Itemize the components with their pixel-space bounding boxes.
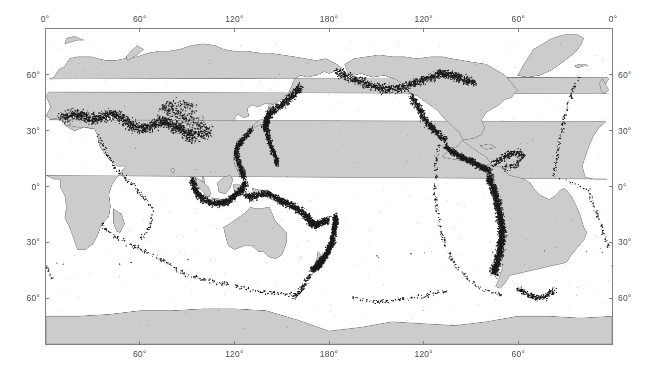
world-map-canvas	[46, 29, 612, 344]
axis-tick-label: 60°	[27, 70, 40, 80]
axis-tick-mark	[609, 186, 613, 187]
axis-tick-mark	[139, 341, 140, 345]
axis-tick-mark	[518, 341, 519, 345]
axis-tick-label: 0°	[618, 182, 627, 192]
earthquake-distribution-figure: 0°60°120°180°120°60°0° 60°120°180°120°60…	[0, 0, 658, 377]
axis-tick-mark	[45, 74, 49, 75]
axis-tick-label: 120°	[414, 349, 432, 359]
axis-tick-label: 120°	[414, 14, 432, 24]
axis-tick-label: 0°	[31, 182, 40, 192]
axis-tick-mark	[423, 28, 424, 32]
map-plot-area[interactable]	[45, 28, 613, 345]
axis-tick-label: 30°	[27, 237, 40, 247]
axis-tick-mark	[609, 242, 613, 243]
axis-tick-mark	[234, 28, 235, 32]
axis-tick-mark	[518, 28, 519, 32]
axis-tick-label: 30°	[618, 237, 631, 247]
axis-tick-mark	[329, 341, 330, 345]
axis-tick-label: 30°	[27, 126, 40, 136]
axis-tick-label: 180°	[320, 14, 338, 24]
axis-tick-mark	[45, 242, 49, 243]
axis-tick-label: 0°	[609, 14, 618, 24]
axis-tick-mark	[423, 341, 424, 345]
axis-tick-label: 60°	[618, 70, 631, 80]
axis-tick-label: 120°	[225, 349, 243, 359]
axis-tick-mark	[234, 341, 235, 345]
axis-tick-label: 60°	[133, 349, 146, 359]
axis-tick-mark	[609, 298, 613, 299]
axis-tick-label: 180°	[320, 349, 338, 359]
axis-tick-label: 60°	[512, 14, 525, 24]
axis-tick-label: 30°	[618, 126, 631, 136]
axis-tick-mark	[609, 74, 613, 75]
axis-tick-mark	[609, 130, 613, 131]
axis-tick-mark	[139, 28, 140, 32]
axis-tick-mark	[45, 186, 49, 187]
axis-tick-label: 0°	[41, 14, 50, 24]
axis-tick-mark	[45, 298, 49, 299]
axis-tick-label: 120°	[225, 14, 243, 24]
axis-tick-mark	[329, 28, 330, 32]
axis-tick-label: 60°	[618, 293, 631, 303]
axis-tick-mark	[45, 130, 49, 131]
axis-tick-label: 60°	[512, 349, 525, 359]
axis-tick-label: 60°	[133, 14, 146, 24]
axis-tick-label: 60°	[27, 293, 40, 303]
